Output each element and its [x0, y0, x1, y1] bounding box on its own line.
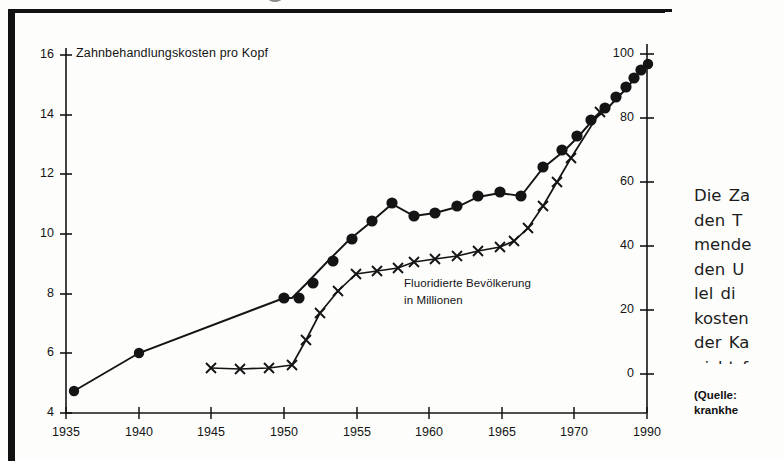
y2-tick-80: 80: [604, 110, 634, 124]
y-tick-16: 16: [28, 47, 54, 61]
y-tick-10: 10: [28, 226, 54, 240]
series-annotation-line1: Fluoridierte Bevölkerung: [404, 275, 531, 292]
y-tick-14: 14: [28, 107, 54, 121]
body-line-6: kosten: [694, 307, 783, 332]
x-tick-1945: 1945: [187, 425, 235, 439]
body-line-1: Die Za: [694, 184, 783, 209]
top-text-bleed-fragment: [268, 0, 282, 2]
x-tick-1960: 1960: [405, 425, 453, 439]
body-line-7: der Ka: [694, 331, 783, 356]
body-line-8: nicht f: [694, 356, 783, 365]
body-line-4: den U: [694, 258, 783, 283]
x-tick-1965: 1965: [478, 425, 526, 439]
chart-title: Zahnbehandlungskosten pro Kopf: [76, 46, 268, 60]
y2-tick-40: 40: [604, 238, 634, 252]
y2-tick-100: 100: [604, 46, 634, 60]
y2-tick-0: 0: [604, 366, 634, 380]
y2-tick-20: 20: [604, 302, 634, 316]
source-citation: (Quelle: krankhe: [694, 388, 783, 428]
y-tick-6: 6: [28, 345, 54, 359]
x-tick-1935: 1935: [42, 425, 90, 439]
x-tick-1970: 1970: [550, 425, 598, 439]
y2-tick-60: 60: [604, 174, 634, 188]
body-text-column: Die Za den T mende den U lel di kosten d…: [694, 184, 783, 364]
source-line-1: (Quelle:: [694, 388, 783, 403]
x-tick-1950: 1950: [260, 425, 308, 439]
series-annotation: Fluoridierte Bevölkerung in Millionen: [404, 275, 531, 309]
x-tick-1990: 1990: [623, 425, 671, 439]
y-tick-8: 8: [28, 286, 54, 300]
body-line-2: den T: [694, 209, 783, 234]
body-line-3: mende: [694, 233, 783, 258]
source-line-2: krankhe: [694, 403, 783, 418]
x-tick-1955: 1955: [333, 425, 381, 439]
series-annotation-line2: in Millionen: [404, 292, 531, 309]
y-tick-12: 12: [28, 166, 54, 180]
y-tick-4: 4: [28, 405, 54, 419]
x-tick-1940: 1940: [115, 425, 163, 439]
figure-frame-border: [8, 9, 665, 461]
body-line-5: lel di: [694, 282, 783, 307]
